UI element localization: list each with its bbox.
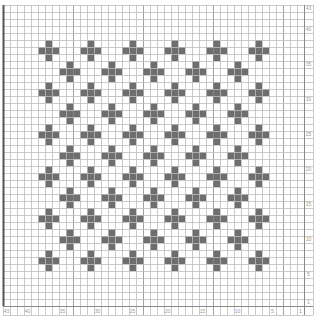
y-tick-label: 5 [307, 271, 310, 277]
cross-motif [248, 208, 269, 229]
cross-motif [248, 40, 269, 61]
cross-motif [164, 40, 185, 61]
cross-motif [164, 124, 185, 145]
cross-motif [80, 40, 101, 61]
cross-motif [227, 145, 248, 166]
cross-motif [143, 229, 164, 250]
cross-motif [185, 145, 206, 166]
cross-motif [227, 229, 248, 250]
cross-motif [38, 208, 59, 229]
y-axis-labels: 434035302520151051 [306, 5, 312, 305]
cross-motif [143, 61, 164, 82]
cross-motif [227, 103, 248, 124]
cross-motif [38, 166, 59, 187]
cross-motif [101, 103, 122, 124]
x-tick-label: 40 [25, 308, 31, 314]
cross-motif [38, 40, 59, 61]
cross-motif [206, 166, 227, 187]
y-tick-label: 25 [306, 131, 312, 137]
cross-motif [122, 166, 143, 187]
x-tick-label: 43 [4, 308, 10, 314]
cross-motif [185, 187, 206, 208]
y-tick-label: 35 [306, 61, 312, 67]
x-tick-label: 25 [130, 308, 136, 314]
cross-motif [80, 166, 101, 187]
y-tick-label: 43 [306, 5, 312, 11]
cross-motif [206, 250, 227, 271]
cross-motif [185, 229, 206, 250]
cross-motif [122, 40, 143, 61]
cross-motif [227, 187, 248, 208]
x-tick-label: 10 [235, 308, 241, 314]
y-tick-label: 10 [306, 236, 312, 242]
cross-motif [164, 208, 185, 229]
cross-motif [185, 61, 206, 82]
y-tick-label: 15 [306, 201, 312, 207]
cross-motif [101, 229, 122, 250]
cross-motif [185, 103, 206, 124]
cross-motif [206, 124, 227, 145]
y-tick-label: 30 [306, 96, 312, 102]
cross-motif [248, 82, 269, 103]
cross-motif [122, 250, 143, 271]
cross-motif [80, 82, 101, 103]
cross-motif [101, 145, 122, 166]
cross-motif [206, 82, 227, 103]
cross-motif [122, 208, 143, 229]
cross-motif [59, 145, 80, 166]
y-tick-label: 40 [306, 26, 312, 32]
cross-motif [38, 250, 59, 271]
x-tick-label: 20 [165, 308, 171, 314]
x-tick-label: 1 [299, 308, 302, 314]
cross-motif [164, 166, 185, 187]
x-tick-label: 15 [200, 308, 206, 314]
cross-motif [80, 250, 101, 271]
x-tick-label: 30 [95, 308, 101, 314]
cross-motif [143, 187, 164, 208]
cross-motif [164, 250, 185, 271]
cross-motif [59, 187, 80, 208]
x-tick-label: 35 [60, 308, 66, 314]
cross-motif [227, 61, 248, 82]
cross-motif [122, 82, 143, 103]
cross-motif [59, 103, 80, 124]
cross-motif [248, 124, 269, 145]
cross-motif [38, 82, 59, 103]
y-tick-label: 1 [307, 299, 310, 305]
cross-motif [80, 124, 101, 145]
cross-motif [59, 229, 80, 250]
cross-motif [143, 145, 164, 166]
cross-motif [248, 250, 269, 271]
y-tick-label: 20 [306, 166, 312, 172]
cross-motif [143, 103, 164, 124]
x-axis-labels: 434035302520151051 [4, 308, 302, 314]
cross-motif [248, 166, 269, 187]
cross-motif [80, 208, 101, 229]
cross-motif [164, 82, 185, 103]
cross-motif [101, 187, 122, 208]
cross-motif [206, 40, 227, 61]
cross-motif [101, 61, 122, 82]
cross-motif [38, 124, 59, 145]
x-tick-label: 5 [271, 308, 274, 314]
cross-motif [59, 61, 80, 82]
cross-motif [206, 208, 227, 229]
stitch-chart: 434035302520151051 434035302520151051 [0, 0, 321, 321]
cross-motif [122, 124, 143, 145]
